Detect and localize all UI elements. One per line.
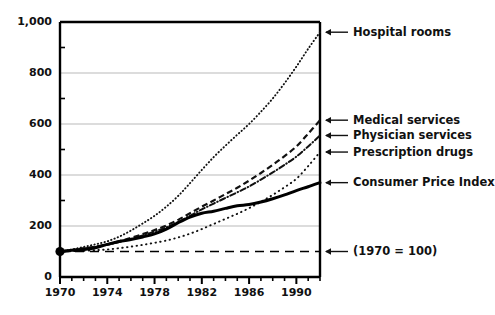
y-axis-tick-label: 200: [29, 219, 52, 232]
origin-marker-dot: [55, 247, 64, 256]
series-line-physician-services: [60, 135, 320, 251]
callout-label-physician-services: Physician services: [353, 128, 472, 142]
callout-arrow-head: [325, 179, 331, 185]
x-axis-tick-label: 1982: [177, 286, 227, 299]
x-axis-tick-label: 1974: [82, 286, 132, 299]
callout-label-consumer-price-index: Consumer Price Index: [353, 175, 495, 189]
callout-label-prescription-drugs: Prescription drugs: [353, 145, 473, 159]
callout-label-hospital-rooms: Hospital rooms: [353, 25, 451, 39]
callout-label-medical-services: Medical services: [353, 113, 460, 127]
x-axis-tick-label: 1990: [271, 286, 321, 299]
x-axis-tick-label: 1970: [35, 286, 85, 299]
callout-arrow-head: [325, 149, 331, 155]
y-axis-tick-label: 0: [44, 270, 52, 283]
x-axis-tick-label: 1978: [130, 286, 180, 299]
y-axis-tick-label: 800: [29, 66, 52, 79]
y-axis-tick-label: 600: [29, 117, 52, 130]
y-axis-tick-label: 1,000: [17, 15, 52, 28]
y-axis-tick-label: 400: [29, 168, 52, 181]
series-line-medical-services: [60, 120, 320, 251]
callout-arrow-head: [325, 248, 331, 254]
callout-arrow-head: [325, 117, 331, 123]
callout-arrow-head: [325, 29, 331, 35]
callout-label--1970-100-: (1970 = 100): [353, 244, 437, 258]
callout-arrow-head: [325, 132, 331, 138]
x-axis-tick-label: 1986: [224, 286, 274, 299]
series-line-consumer-price-index: [60, 183, 320, 252]
